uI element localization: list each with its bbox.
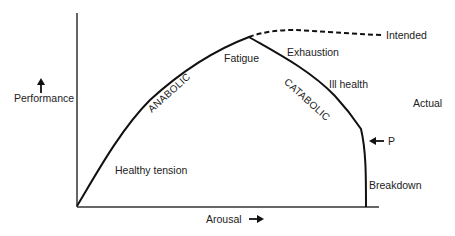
y-axis-label: Performance — [14, 93, 74, 104]
left-arrow-icon — [369, 137, 384, 145]
right-arrow-icon — [249, 215, 264, 223]
fatigue-label: Fatigue — [224, 53, 259, 64]
intended-curve — [249, 30, 383, 37]
actual-label: Actual — [413, 98, 442, 109]
x-axis-label: Arousal — [206, 214, 242, 225]
ill-health-label: Ill health — [329, 79, 368, 90]
actual-curve — [77, 37, 366, 207]
exhaustion-label: Exhaustion — [287, 47, 339, 58]
up-arrow-icon — [37, 78, 45, 93]
intended-label: Intended — [386, 30, 427, 41]
p-marker-label: P — [388, 136, 395, 147]
healthy-tension-label: Healthy tension — [115, 165, 187, 176]
breakdown-label: Breakdown — [369, 180, 422, 191]
